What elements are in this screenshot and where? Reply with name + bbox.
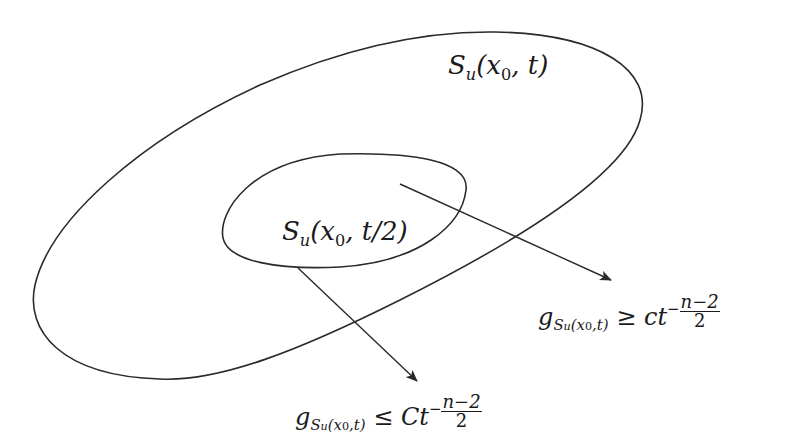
sub-rest: ,t) xyxy=(349,416,366,434)
exponent-fraction: n−22 xyxy=(441,393,481,430)
formula-subscript: Su(x0,t) xyxy=(553,316,608,334)
label-rest: , t/2) xyxy=(345,216,407,246)
exp-sign: − xyxy=(429,400,441,418)
outer-set-label: Su(x0, t) xyxy=(448,52,548,83)
sub-x0: 0 xyxy=(342,420,349,433)
inner-set-label: Su(x0, t/2) xyxy=(282,218,408,249)
label-rest: , t) xyxy=(511,50,548,80)
label-args: (x xyxy=(310,216,335,246)
relation-symbol: ≤ xyxy=(373,403,393,431)
label-args: (x xyxy=(476,50,501,80)
sub-rest: ,t) xyxy=(592,316,609,334)
formula-coef: Ct xyxy=(401,403,429,431)
sub-S: S xyxy=(553,316,563,334)
formula-g: g xyxy=(295,403,310,431)
formula-subscript: Su(x0,t) xyxy=(310,416,365,434)
label-S: S xyxy=(282,216,300,246)
exponent-fraction: n−22 xyxy=(680,293,720,330)
sub-args: (x xyxy=(328,416,342,434)
arrow-to-upper-bound xyxy=(298,268,417,381)
label-sub-u: u xyxy=(300,231,310,250)
sub-u: u xyxy=(564,320,571,333)
lower-bound-formula: gSu(x0,t) ≥ ct−n−22 xyxy=(538,293,720,333)
upper-bound-formula: gSu(x0,t) ≤ Ct−n−22 xyxy=(295,393,482,433)
sub-x0: 0 xyxy=(585,320,592,333)
sub-args: (x xyxy=(571,316,585,334)
label-sub-0: 0 xyxy=(501,65,511,84)
sub-S: S xyxy=(310,416,320,434)
formula-coef: ct xyxy=(644,303,667,331)
relation-symbol: ≥ xyxy=(616,303,636,331)
arrow-to-lower-bound xyxy=(400,184,611,280)
label-S: S xyxy=(448,50,466,80)
exp-sign: − xyxy=(667,300,679,318)
label-sub-0: 0 xyxy=(335,231,345,250)
exp-denominator: 2 xyxy=(694,312,705,330)
sub-u: u xyxy=(321,420,328,433)
label-sub-u: u xyxy=(466,65,476,84)
inner-set-boundary xyxy=(222,154,466,268)
exp-denominator: 2 xyxy=(456,412,467,430)
formula-g: g xyxy=(538,303,553,331)
